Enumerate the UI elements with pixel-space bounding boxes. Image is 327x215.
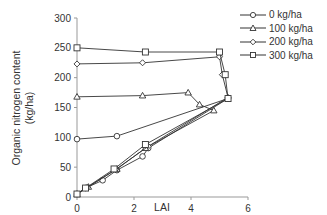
y-tick-label: 300 bbox=[54, 13, 71, 24]
y-tick-label: 100 bbox=[54, 132, 71, 143]
axes: 0501001502002503000246 bbox=[54, 13, 251, 215]
series-line bbox=[77, 48, 228, 194]
legend-label: 0 kg/ha bbox=[269, 9, 302, 20]
square-marker-icon bbox=[83, 185, 89, 191]
circle-marker-icon bbox=[140, 154, 146, 160]
square-marker-icon bbox=[240, 51, 266, 59]
square-marker-icon bbox=[111, 166, 117, 172]
circle-marker-icon bbox=[240, 11, 266, 19]
diamond-marker-icon bbox=[74, 61, 80, 67]
square-marker-icon bbox=[142, 141, 148, 147]
legend-label: 300 kg/ha bbox=[269, 50, 313, 61]
diamond-marker-icon bbox=[240, 38, 266, 46]
y-axis-title-line1: Organic nitrogen content bbox=[10, 50, 22, 165]
circle-marker-icon bbox=[114, 133, 120, 139]
legend-item-0: 0 kg/ha bbox=[240, 8, 313, 22]
y-tick-label: 150 bbox=[54, 102, 71, 113]
legend-label: 100 kg/ha bbox=[269, 23, 313, 34]
x-tick-label: 2 bbox=[131, 203, 137, 214]
series-line bbox=[77, 57, 228, 194]
y-tick-label: 200 bbox=[54, 72, 71, 83]
square-marker-icon bbox=[217, 49, 223, 55]
circle-marker-icon bbox=[74, 136, 80, 142]
square-marker-icon bbox=[142, 49, 148, 55]
square-marker-icon bbox=[222, 72, 228, 78]
legend-item-3: 300 kg/ha bbox=[240, 49, 313, 63]
x-axis-title: LAI bbox=[154, 201, 170, 213]
series-200-kg-ha bbox=[74, 54, 231, 197]
series-300-kg-ha bbox=[74, 45, 231, 197]
y-tick-label: 250 bbox=[54, 42, 71, 53]
legend-label: 200 kg/ha bbox=[269, 36, 313, 47]
y-axis-title-line2: (kg/ha) bbox=[23, 92, 35, 125]
legend: 0 kg/ha 100 kg/ha 200 kg/ha 300 kg/ha bbox=[240, 8, 313, 62]
square-marker-icon bbox=[74, 45, 80, 51]
y-tick-label: 0 bbox=[65, 192, 71, 203]
square-marker-icon bbox=[225, 96, 231, 102]
legend-item-1: 100 kg/ha bbox=[240, 22, 313, 36]
x-tick-label: 0 bbox=[74, 203, 80, 214]
diamond-marker-icon bbox=[140, 60, 146, 66]
legend-item-2: 200 kg/ha bbox=[240, 35, 313, 49]
series-0-kg-ha bbox=[74, 96, 231, 197]
square-marker-icon bbox=[74, 191, 80, 197]
triangle-marker-icon bbox=[185, 89, 191, 95]
y-tick-label: 50 bbox=[60, 162, 72, 173]
triangle-marker-icon bbox=[240, 24, 266, 32]
x-tick-label: 4 bbox=[188, 203, 194, 214]
x-tick-label: 6 bbox=[245, 203, 251, 214]
series-group bbox=[74, 45, 231, 197]
